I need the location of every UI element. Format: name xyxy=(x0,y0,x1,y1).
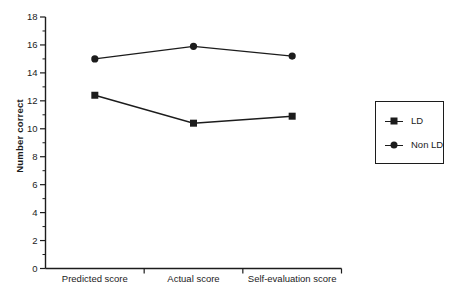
y-tick-label: 6 xyxy=(32,179,37,190)
x-category-label-predicted: Predicted score xyxy=(46,273,145,285)
y-tick-label: 2 xyxy=(32,235,37,246)
ld-square-marker-icon xyxy=(391,117,398,124)
y-tick-label: 16 xyxy=(27,39,38,50)
ld-legend-label: LD xyxy=(411,115,423,126)
non-ld-legend-label: Non LD xyxy=(411,139,443,150)
data-point-circle xyxy=(91,55,98,62)
ld-legend-key xyxy=(385,116,403,125)
data-point-square xyxy=(289,113,296,120)
legend-entry-ld: LD xyxy=(385,115,443,126)
data-point-square xyxy=(91,92,98,99)
y-tick-label: 18 xyxy=(27,11,38,22)
non-ld-legend-key xyxy=(385,140,403,149)
data-point-circle xyxy=(190,43,197,50)
x-category-label-self-evaluation: Self-evaluation score xyxy=(243,273,342,285)
non-ld-circle-marker-icon xyxy=(391,141,398,148)
legend-box: LD Non LD xyxy=(375,101,444,164)
series-line-ld xyxy=(95,95,292,123)
y-tick-label: 0 xyxy=(32,263,37,274)
y-tick-label: 4 xyxy=(32,207,37,218)
y-tick-label: 8 xyxy=(32,151,37,162)
line-chart-figure: 024681012141618 Number correct Predicted… xyxy=(0,0,459,302)
x-category-label-actual: Actual score xyxy=(144,273,243,285)
data-point-square xyxy=(190,120,197,127)
y-axis-title: Number correct xyxy=(14,99,25,173)
y-tick-label: 12 xyxy=(27,95,38,106)
y-tick-label: 10 xyxy=(27,123,38,134)
y-tick-label: 14 xyxy=(27,67,38,78)
legend-entry-non-ld: Non LD xyxy=(385,139,443,150)
data-point-circle xyxy=(289,53,296,60)
